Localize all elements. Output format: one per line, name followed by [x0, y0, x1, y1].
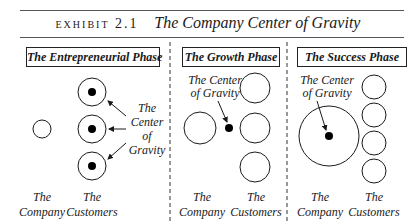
center-of-gravity-dot — [88, 88, 96, 96]
annotation-line: The — [126, 101, 168, 115]
label-line: The — [346, 190, 402, 205]
customers-label: The Customers — [64, 190, 120, 220]
entrepreneurial-diagram — [33, 78, 126, 180]
label-line: Company — [17, 205, 67, 220]
company-circle — [33, 120, 51, 138]
company-circle — [184, 112, 216, 144]
arrow — [108, 101, 126, 116]
center-of-gravity-annotation: The Center of Gravity — [126, 101, 168, 157]
label-line: The — [228, 190, 284, 205]
annotation-line: of Gravity — [292, 87, 362, 100]
annotation-line: Center — [126, 115, 168, 129]
phase-title-entrepreneurial: The Entrepreneurial Phase — [26, 47, 160, 67]
customer-circle — [240, 152, 270, 182]
label-line: Company — [177, 205, 227, 220]
label-line: The — [177, 190, 227, 205]
center-of-gravity-dot — [88, 125, 96, 133]
arrow — [218, 101, 227, 122]
customer-circle — [362, 75, 386, 99]
arrow — [108, 143, 126, 159]
diagram-canvas — [0, 0, 416, 222]
phase-title-growth: The Growth Phase — [182, 47, 280, 67]
arrow — [317, 101, 326, 130]
label-line: Customers — [346, 205, 402, 220]
customers-label: The Customers — [346, 190, 402, 220]
label-line: Customers — [228, 205, 284, 220]
phase-title-success: The Success Phase — [297, 47, 407, 67]
company-label: The Company — [295, 190, 345, 220]
customer-circle — [362, 131, 386, 155]
center-of-gravity-annotation: The Center of Gravity — [180, 74, 250, 100]
company-label: The Company — [17, 190, 67, 220]
center-of-gravity-annotation: The Center of Gravity — [292, 74, 362, 100]
customer-circle — [362, 103, 386, 127]
customer-circle — [240, 113, 270, 143]
label-line: Customers — [64, 205, 120, 220]
annotation-line: Gravity — [126, 143, 168, 157]
center-of-gravity-dot — [88, 162, 96, 170]
center-of-gravity-dot — [225, 124, 233, 132]
center-of-gravity-dot — [325, 132, 333, 140]
customer-circle — [362, 159, 386, 183]
label-line: The — [17, 190, 67, 205]
company-label: The Company — [177, 190, 227, 220]
label-line: The — [295, 190, 345, 205]
annotation-line: of — [126, 129, 168, 143]
customers-label: The Customers — [228, 190, 284, 220]
label-line: Company — [295, 205, 345, 220]
label-line: The — [64, 190, 120, 205]
annotation-line: of Gravity — [180, 87, 250, 100]
